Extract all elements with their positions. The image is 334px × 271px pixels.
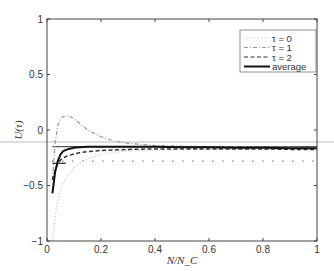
x-axis-label: N/N_C — [166, 254, 198, 266]
series-line — [52, 149, 317, 241]
x-tick-label: 0.4 — [148, 244, 162, 255]
x-tick-label: 1 — [314, 244, 320, 255]
series-line — [52, 149, 317, 180]
x-tick-label: 0.2 — [94, 244, 108, 255]
y-tick-label: −0.5 — [23, 180, 43, 191]
y-tick-label: 0.5 — [29, 69, 43, 80]
plot-area — [52, 116, 317, 241]
x-tick-label: 0.8 — [256, 244, 270, 255]
chart: 00.20.40.60.81 −1−0.500.51 N/N_C U(τ) τ … — [0, 0, 334, 271]
y-axis-label: U(τ) — [12, 120, 25, 140]
series-line — [52, 147, 317, 194]
y-tick-label: 0 — [37, 125, 43, 136]
legend-label: average — [272, 61, 306, 72]
legend: τ = 0τ = 1τ = 2average — [240, 30, 316, 72]
y-tick-label: 1 — [37, 14, 43, 25]
x-tick-label: 0 — [44, 244, 50, 255]
y-tick-label: −1 — [32, 236, 44, 247]
x-tick-label: 0.6 — [202, 244, 216, 255]
